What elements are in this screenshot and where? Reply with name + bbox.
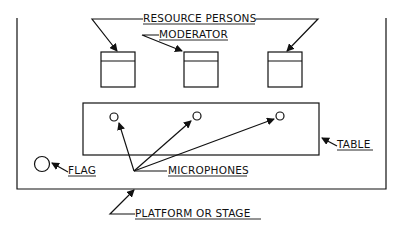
flag-leader (52, 163, 68, 172)
table-shape (83, 103, 319, 155)
label-resource-persons: RESOURCE PERSONS (143, 12, 257, 24)
resource-persons-leader-left (92, 19, 143, 51)
label-table: TABLE (336, 138, 370, 150)
resource-persons-leader-right (256, 19, 318, 51)
table-leader (322, 138, 337, 146)
label-moderator: MODERATOR (159, 28, 228, 40)
chair-resource-person-left (101, 52, 135, 87)
label-platform-or-stage: PLATFORM OR STAGE (135, 207, 251, 219)
microphone-icon (193, 112, 201, 120)
label-microphones: MICROPHONES (168, 164, 249, 176)
flag-icon (35, 157, 50, 172)
chair-moderator (184, 52, 218, 87)
chair-resource-person-right (268, 52, 302, 87)
microphone-icon (276, 112, 284, 120)
label-flag: FLAG (68, 164, 96, 176)
platform-leader (110, 190, 135, 214)
stage-layout-diagram: RESOURCE PERSONS MODERATOR TABLE FLAG MI… (0, 0, 399, 238)
microphone-icon (110, 113, 118, 121)
